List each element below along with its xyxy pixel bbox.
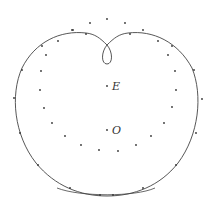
curve-point [175, 164, 177, 166]
limacon-figure [0, 0, 213, 208]
inner-point [39, 89, 41, 91]
curve-point [69, 187, 71, 189]
label-E: E [112, 81, 120, 92]
curve-point [129, 33, 131, 35]
curve-point [13, 97, 15, 99]
curve-point [142, 187, 144, 189]
curve-point [195, 132, 197, 134]
inner-point [40, 70, 42, 72]
inner-point [175, 89, 177, 91]
inner-point [163, 122, 165, 124]
curve-point [85, 33, 87, 35]
inner-point [157, 40, 159, 42]
curve-point [193, 69, 195, 71]
inner-point [117, 150, 119, 152]
curve-point [37, 164, 39, 166]
curve-point [99, 194, 101, 196]
inner-point [51, 122, 53, 124]
curve-point [201, 98, 203, 100]
bottom-arc [57, 188, 155, 195]
curve-point [72, 29, 74, 31]
inner-point [142, 29, 144, 31]
curve-point [171, 45, 173, 47]
curve-point [19, 132, 21, 134]
inner-point [57, 40, 59, 42]
inner-point [64, 135, 66, 137]
curve-point [21, 69, 23, 71]
inner-point [135, 144, 137, 146]
inner-point [98, 149, 100, 151]
outer-curve [15, 33, 198, 196]
inner-point [106, 18, 108, 20]
label-O: O [112, 125, 121, 136]
inner-point [150, 135, 152, 137]
inner-point [171, 106, 173, 108]
inner-point [45, 54, 47, 56]
inner-point [89, 22, 91, 24]
inner-point [174, 70, 176, 72]
curve-point [41, 45, 43, 47]
inner-point [124, 22, 126, 24]
point-E [106, 85, 108, 87]
curve-point [112, 194, 114, 196]
diagram-canvas: E O [0, 0, 213, 208]
inner-loop [103, 45, 112, 64]
point-O [106, 129, 108, 131]
inner-point [43, 107, 45, 109]
inner-point [167, 54, 169, 56]
inner-point [80, 144, 82, 146]
